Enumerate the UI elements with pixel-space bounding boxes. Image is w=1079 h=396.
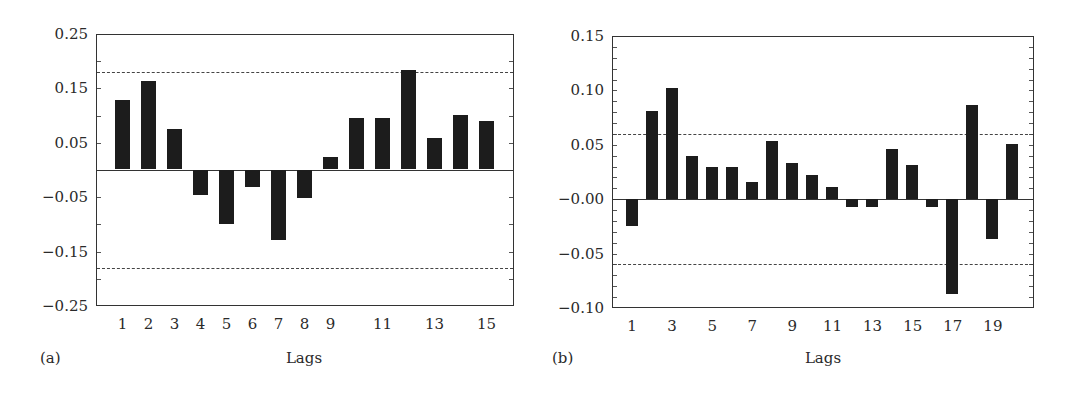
bar-lag-13 <box>866 199 878 208</box>
y-tick-mark <box>1029 101 1033 102</box>
bar-lag-15 <box>906 165 918 199</box>
y-tick-mark <box>1029 69 1033 70</box>
y-tick-mark <box>1029 188 1033 189</box>
y-tick-mark <box>613 286 617 287</box>
y-tick-mark <box>97 116 101 117</box>
bar-lag-1 <box>115 100 130 170</box>
y-tick-mark <box>613 188 617 189</box>
y-tick-mark <box>613 47 617 48</box>
y-tick-mark <box>1029 90 1033 91</box>
y-tick-mark <box>1029 123 1033 124</box>
y-tick-mark <box>509 143 513 144</box>
bar-lag-19 <box>986 199 998 239</box>
y-tick-label: 0.05 <box>534 136 604 154</box>
panel-label-a: (a) <box>40 349 61 367</box>
y-tick-label: 0.25 <box>18 25 88 43</box>
y-tick-mark <box>509 197 513 198</box>
plot-area-b <box>612 36 1034 308</box>
y-tick-mark <box>1029 167 1033 168</box>
y-tick-label: −0.05 <box>18 188 88 206</box>
bar-lag-6 <box>245 170 260 188</box>
bar-lag-2 <box>141 81 156 169</box>
y-tick-mark <box>613 90 617 91</box>
panel-label-b: (b) <box>552 349 573 367</box>
y-tick-mark <box>97 197 101 198</box>
bar-lag-18 <box>966 105 978 199</box>
bar-lag-3 <box>666 88 678 199</box>
y-tick-mark <box>613 123 617 124</box>
bar-lag-1 <box>626 199 638 226</box>
y-tick-mark <box>509 88 513 89</box>
bar-lag-8 <box>297 170 312 198</box>
y-tick-mark <box>1029 112 1033 113</box>
bar-lag-16 <box>926 199 938 208</box>
y-tick-mark <box>613 69 617 70</box>
bar-lag-12 <box>401 70 416 169</box>
bar-lag-20 <box>1006 144 1018 198</box>
zero-line <box>613 199 1033 200</box>
bar-lag-9 <box>323 157 338 170</box>
x-axis-title-a: Lags <box>264 349 344 367</box>
y-tick-mark <box>613 210 617 211</box>
y-tick-mark <box>613 221 617 222</box>
y-tick-mark <box>509 224 513 225</box>
y-tick-mark <box>1029 47 1033 48</box>
x-tick-label: 15 <box>898 317 928 335</box>
bar-lag-4 <box>686 156 698 198</box>
bar-lag-7 <box>746 182 758 198</box>
y-tick-mark <box>1029 243 1033 244</box>
lower-confidence-bound <box>97 268 513 269</box>
y-tick-label: 0.15 <box>534 27 604 45</box>
bar-lag-11 <box>375 118 390 169</box>
bar-lag-14 <box>886 149 898 199</box>
x-tick-label: 11 <box>818 317 848 335</box>
y-tick-mark <box>1029 286 1033 287</box>
y-tick-mark <box>613 167 617 168</box>
lower-confidence-bound <box>613 264 1033 265</box>
x-tick-label: 7 <box>737 317 767 335</box>
y-tick-mark <box>1029 177 1033 178</box>
y-tick-label: 0.05 <box>18 134 88 152</box>
bar-lag-10 <box>349 118 364 169</box>
y-tick-mark <box>613 80 617 81</box>
bar-lag-3 <box>167 129 182 170</box>
figure: Lags (a) 0.250.150.05−0.05−0.15−0.251234… <box>0 0 1079 396</box>
bar-lag-4 <box>193 170 208 195</box>
y-tick-mark <box>97 224 101 225</box>
bar-lag-15 <box>479 121 494 169</box>
plot-area-a <box>96 34 514 306</box>
y-tick-mark <box>1029 232 1033 233</box>
bar-lag-13 <box>427 138 442 170</box>
bar-lag-12 <box>846 199 858 208</box>
y-tick-mark <box>97 279 101 280</box>
y-tick-mark <box>613 58 617 59</box>
y-tick-label: −0.05 <box>534 245 604 263</box>
upper-confidence-bound <box>97 72 513 73</box>
y-tick-mark <box>613 112 617 113</box>
x-tick-label: 3 <box>657 317 687 335</box>
bar-lag-5 <box>219 170 234 225</box>
y-tick-mark <box>613 254 617 255</box>
y-tick-mark <box>1029 210 1033 211</box>
y-tick-mark <box>1029 254 1033 255</box>
bar-lag-10 <box>806 175 818 199</box>
x-tick-label: 9 <box>777 317 807 335</box>
y-tick-mark <box>613 275 617 276</box>
y-tick-mark <box>509 61 513 62</box>
y-tick-label: −0.10 <box>534 299 604 317</box>
y-tick-mark <box>509 116 513 117</box>
bar-lag-14 <box>453 115 468 170</box>
x-tick-label: 1 <box>617 317 647 335</box>
x-tick-label: 13 <box>858 317 888 335</box>
y-tick-mark <box>613 101 617 102</box>
y-tick-mark <box>613 156 617 157</box>
bar-lag-8 <box>766 141 778 199</box>
bar-lag-2 <box>646 111 658 199</box>
y-tick-label: 0.15 <box>18 79 88 97</box>
y-tick-mark <box>613 177 617 178</box>
y-tick-mark <box>97 252 101 253</box>
x-axis-title-b: Lags <box>783 349 863 367</box>
x-tick-label: 19 <box>978 317 1008 335</box>
x-tick-label: 17 <box>938 317 968 335</box>
bar-lag-7 <box>271 170 286 241</box>
